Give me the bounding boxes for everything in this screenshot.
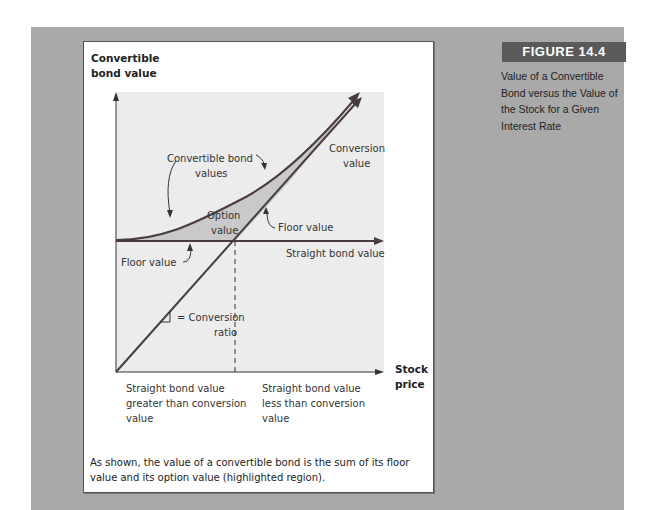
label-convertible-bond-values-1: Convertible bond — [167, 153, 253, 164]
region-right-line2: less than conversion — [262, 396, 365, 411]
region-left-line2: greater than conversion — [126, 396, 246, 411]
region-left-line3: value — [126, 411, 246, 426]
label-floor-value-right: Floor value — [278, 222, 333, 233]
label-conversion-ratio-2: ratio — [214, 327, 237, 338]
label-conversion-ratio-1: = Conversion — [177, 312, 245, 323]
region-right-line3: value — [262, 411, 365, 426]
region-right-line1: Straight bond value — [262, 381, 365, 396]
x-axis-label-line1: Stock — [395, 362, 428, 377]
region-left-line1: Straight bond value — [126, 381, 246, 396]
x-axis-label: Stock price — [395, 362, 428, 392]
y-axis-label-line2: bond value — [91, 66, 159, 81]
label-floor-value-left: Floor value — [121, 257, 176, 268]
y-axis-label-line1: Convertible — [91, 51, 159, 66]
y-axis-label: Convertible bond value — [91, 51, 159, 81]
bottom-note: As shown, the value of a convertible bon… — [90, 455, 420, 485]
label-conversion-value-2: value — [343, 158, 370, 169]
region-right-note: Straight bond value less than conversion… — [262, 381, 365, 426]
label-straight-bond-value: Straight bond value — [286, 248, 385, 259]
label-convertible-bond-values-2: values — [195, 168, 228, 179]
label-option-value-2: value — [211, 225, 238, 236]
region-left-note: Straight bond value greater than convers… — [126, 381, 246, 426]
plot-area — [116, 92, 384, 372]
x-axis-label-line2: price — [395, 377, 428, 392]
label-option-value-1: Option — [207, 210, 240, 221]
label-conversion-value-1: Conversion — [329, 143, 385, 154]
